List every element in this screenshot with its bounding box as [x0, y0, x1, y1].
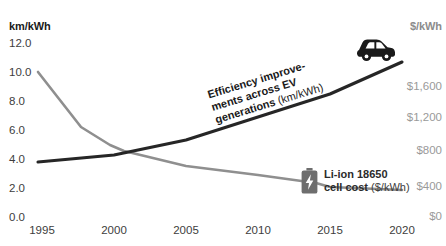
- battery-legend-text: Li-ion 18650 cell cost ($/kWh): [324, 168, 410, 194]
- car-icon: [357, 39, 395, 61]
- battery-legend: Li-ion 18650 cell cost ($/kWh): [301, 168, 410, 194]
- dual-axis-line-chart: km/kWh $/kWh 12.0 10.0 8.0 6.0 4.0 2.0 0…: [0, 0, 446, 246]
- battery-icon: [301, 168, 318, 194]
- battery-legend-line1: Li-ion 18650: [324, 168, 410, 181]
- battery-legend-line2: cell cost ($/kWh): [324, 181, 410, 194]
